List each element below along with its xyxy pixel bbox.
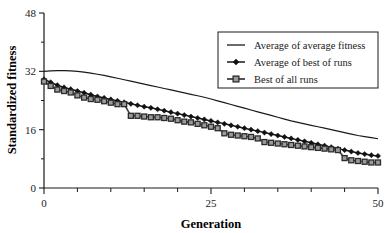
data-point-marker	[362, 159, 367, 164]
data-point-marker	[349, 158, 354, 163]
legend-label: Average of best of runs	[254, 57, 352, 68]
chart-legend: Average of average fitnessAverage of bes…	[218, 32, 378, 88]
data-point-marker	[355, 159, 360, 164]
data-point-marker	[195, 115, 200, 120]
x-tick-label: 0	[41, 197, 47, 209]
data-point-marker	[235, 133, 240, 138]
data-point-marker	[242, 126, 247, 131]
data-point-marker	[376, 160, 381, 165]
data-point-marker	[95, 97, 100, 102]
legend-label: Average of average fitness	[254, 40, 365, 51]
data-point-marker	[148, 105, 153, 110]
data-point-marker	[315, 145, 320, 150]
data-point-marker	[369, 160, 374, 165]
data-point-marker	[142, 104, 147, 109]
data-point-marker	[342, 147, 347, 152]
data-point-marker	[202, 117, 207, 122]
y-tick-label: 16	[25, 124, 37, 136]
data-point-marker	[88, 97, 93, 102]
data-point-marker	[329, 147, 334, 152]
data-point-marker	[249, 134, 254, 139]
data-point-marker	[235, 124, 240, 129]
data-point-marker	[375, 153, 380, 158]
data-point-marker	[142, 114, 147, 119]
data-point-marker	[162, 108, 167, 113]
data-point-marker	[255, 136, 260, 141]
data-point-marker	[82, 95, 87, 100]
data-point-marker	[108, 100, 113, 105]
y-tick-label: 48	[25, 7, 37, 19]
series-line	[44, 79, 378, 156]
data-point-marker	[222, 121, 227, 126]
data-point-marker	[128, 101, 133, 106]
data-point-marker	[289, 136, 294, 141]
data-point-marker	[148, 115, 153, 120]
data-point-marker	[269, 131, 274, 136]
data-point-marker	[228, 123, 233, 128]
chart-canvas: 016324802550 Average of average fitnessA…	[0, 0, 390, 233]
data-point-marker	[262, 140, 267, 145]
x-axis-title: Generation	[181, 217, 241, 231]
data-point-marker	[342, 156, 347, 161]
data-point-marker	[162, 116, 167, 121]
data-point-marker	[175, 111, 180, 116]
data-point-marker	[168, 110, 173, 115]
data-point-marker	[188, 120, 193, 125]
data-point-marker	[62, 89, 67, 94]
data-point-marker	[262, 130, 267, 135]
data-point-marker	[362, 151, 367, 156]
data-point-marker	[55, 87, 60, 92]
data-point-marker	[168, 116, 173, 121]
data-point-marker	[242, 134, 247, 139]
data-point-marker	[102, 99, 107, 104]
data-point-marker	[289, 142, 294, 147]
data-point-marker	[295, 143, 300, 148]
x-tick-label: 25	[206, 197, 218, 209]
data-point-marker	[302, 144, 307, 149]
y-tick-label: 0	[31, 182, 37, 194]
data-point-marker	[42, 79, 47, 84]
legend-square-icon	[233, 76, 239, 82]
data-point-marker	[309, 145, 314, 150]
data-point-marker	[128, 113, 133, 118]
chart-figure: 016324802550 Average of average fitnessA…	[0, 0, 390, 233]
data-point-marker	[182, 119, 187, 124]
data-point-marker	[115, 102, 120, 107]
data-point-marker	[295, 137, 300, 142]
y-tick-label: 32	[25, 65, 36, 77]
data-point-marker	[302, 139, 307, 144]
data-point-marker	[155, 115, 160, 120]
data-point-marker	[215, 126, 220, 131]
data-point-marker	[215, 120, 220, 125]
data-point-marker	[68, 90, 73, 95]
y-axis-title: Standardized fitness	[5, 46, 19, 155]
data-point-marker	[322, 146, 327, 151]
data-point-marker	[229, 132, 234, 137]
data-point-marker	[48, 83, 53, 88]
data-point-marker	[195, 121, 200, 126]
data-point-marker	[335, 148, 340, 153]
data-point-marker	[222, 131, 227, 136]
data-point-marker	[282, 134, 287, 139]
data-point-marker	[275, 133, 280, 138]
data-point-marker	[75, 93, 80, 98]
data-point-marker	[208, 118, 213, 123]
data-point-marker	[202, 123, 207, 128]
data-point-marker	[155, 107, 160, 112]
data-point-marker	[188, 114, 193, 119]
data-point-marker	[248, 127, 253, 132]
data-point-marker	[175, 118, 180, 123]
data-point-marker	[275, 141, 280, 146]
data-point-marker	[122, 102, 127, 107]
data-point-marker	[255, 129, 260, 134]
data-point-marker	[355, 150, 360, 155]
data-point-marker	[209, 124, 214, 129]
data-point-marker	[135, 113, 140, 118]
data-point-marker	[182, 112, 187, 117]
data-point-marker	[269, 140, 274, 145]
data-point-marker	[369, 153, 374, 158]
legend-label: Best of all runs	[254, 74, 318, 85]
data-point-marker	[135, 103, 140, 108]
data-point-marker	[282, 142, 287, 147]
x-tick-label: 50	[373, 197, 385, 209]
